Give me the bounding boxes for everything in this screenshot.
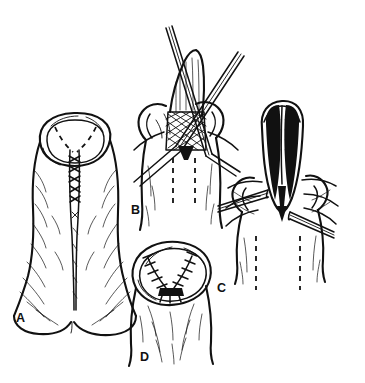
panel-label-c: C	[217, 281, 226, 295]
panel-c-central-cleft	[281, 106, 282, 184]
figure-container: A	[0, 0, 365, 383]
panel-label-a: A	[16, 311, 25, 325]
panel-label-b: B	[131, 203, 140, 217]
surgical-figure-illustration: A	[0, 0, 365, 383]
panel-d-closure-bar	[158, 288, 184, 296]
panel-label-d: D	[140, 350, 149, 364]
